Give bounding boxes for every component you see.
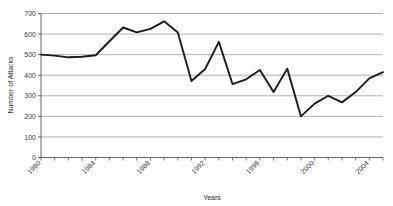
chart-background	[0, 0, 393, 206]
y-axis-title: Number of Attacks	[7, 56, 14, 114]
chart-canvas: 0100200300400500600700 19801984198819921…	[0, 0, 393, 206]
y-tick-label-100: 100	[24, 134, 36, 141]
line-chart: 0100200300400500600700 19801984198819921…	[0, 0, 393, 206]
x-axis-title: Years	[203, 194, 221, 201]
y-tick-label-600: 600	[24, 31, 36, 38]
y-tick-label-200: 200	[24, 113, 36, 120]
y-tick-label-400: 400	[24, 72, 36, 79]
y-tick-label-700: 700	[24, 10, 36, 17]
y-tick-label-300: 300	[24, 92, 36, 99]
y-tick-label-500: 500	[24, 51, 36, 58]
